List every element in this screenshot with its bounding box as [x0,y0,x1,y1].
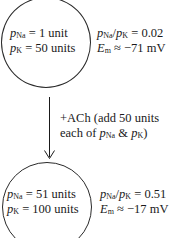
value: ≈ −17 mV [114,202,169,216]
top-pk-line: pK = 50 units [10,41,75,58]
ampersand: & [115,126,131,140]
value: = 0.51 [131,187,166,201]
bottom-em-line: Em ≈ −17 mV [100,202,168,219]
transition-arrow-shaft [49,97,50,157]
top-em-line: Em ≈ −71 mV [97,41,165,58]
e-symbol: E [97,41,105,55]
bottom-pk-line: pK = 100 units [7,202,79,219]
subscript: Na [106,131,115,140]
subscript: Na [16,31,25,40]
text: each of [60,126,100,140]
value: = 51 units [23,187,76,201]
subscript: Na [13,192,22,201]
value: = 1 unit [26,26,68,40]
arrow-down-icon [44,150,55,159]
value: = 50 units [22,41,75,55]
value: ≈ −71 mV [111,41,166,55]
ach-label-line2: each of pNa & pK) [60,126,147,143]
text: ) [143,126,147,140]
subscript: Na [106,192,115,201]
ach-label-line1: +ACh (add 50 units [60,111,159,125]
subscript: Na [103,31,112,40]
value: = 100 units [19,202,79,216]
e-symbol: E [100,202,108,216]
value: = 0.02 [128,26,163,40]
